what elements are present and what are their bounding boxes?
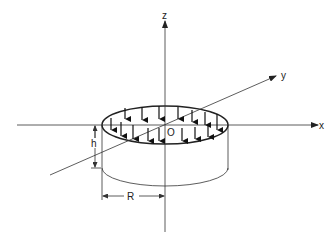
height-label: h bbox=[91, 138, 97, 149]
y-axis-label: y bbox=[281, 70, 286, 81]
diagram-canvas: z y x O h R bbox=[0, 0, 328, 246]
load-arrows bbox=[111, 106, 217, 141]
z-axis-label: z bbox=[162, 10, 167, 21]
origin-label: O bbox=[167, 127, 175, 138]
y-axis bbox=[50, 76, 276, 175]
x-axis-label: x bbox=[319, 120, 324, 131]
radius-label: R bbox=[127, 191, 134, 202]
